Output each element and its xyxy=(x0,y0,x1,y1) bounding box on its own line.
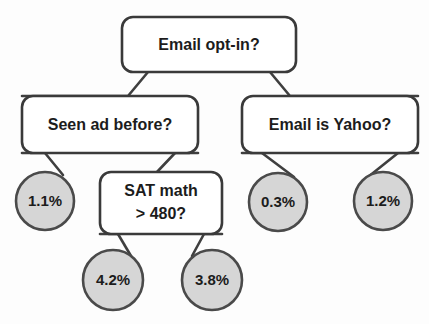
leaf-node-1-2[interactable]: 1.2% xyxy=(354,172,412,230)
leaf-label-1-1: 1.1% xyxy=(28,192,62,209)
node-email-is-yahoo[interactable]: Email is Yahoo? xyxy=(242,96,418,153)
leaf-node-3-8[interactable]: 3.8% xyxy=(182,250,242,310)
node-label-email-opt-in: Email opt-in? xyxy=(158,36,259,53)
node-email-opt-in[interactable]: Email opt-in? xyxy=(122,17,296,72)
leaf-label-4-2: 4.2% xyxy=(96,271,130,288)
node-label-sat-math-line2: > 480? xyxy=(136,205,186,222)
decision-tree-canvas: Email opt-in? Seen ad before? Email is Y… xyxy=(0,0,429,324)
leaf-label-3-8: 3.8% xyxy=(195,271,229,288)
node-label-sat-math-line1: SAT math xyxy=(124,182,197,199)
leaf-node-0-3[interactable]: 0.3% xyxy=(249,173,307,231)
edge-seen-ad-to-sat xyxy=(157,153,175,172)
decision-tree-diagram: Email opt-in? Seen ad before? Email is Y… xyxy=(0,0,429,324)
node-label-email-is-yahoo: Email is Yahoo? xyxy=(269,116,391,133)
node-seen-ad-before[interactable]: Seen ad before? xyxy=(22,96,198,153)
leaf-node-4-2[interactable]: 4.2% xyxy=(83,250,143,310)
leaf-node-1-1[interactable]: 1.1% xyxy=(16,172,74,230)
leaf-label-0-3: 0.3% xyxy=(261,193,295,210)
edge-root-to-seen-ad xyxy=(22,72,148,96)
edge-root-to-yahoo xyxy=(270,72,418,96)
node-sat-math-480[interactable]: SAT math > 480? xyxy=(100,172,222,234)
leaf-label-1-2: 1.2% xyxy=(366,192,400,209)
node-label-seen-ad-before: Seen ad before? xyxy=(48,116,172,133)
